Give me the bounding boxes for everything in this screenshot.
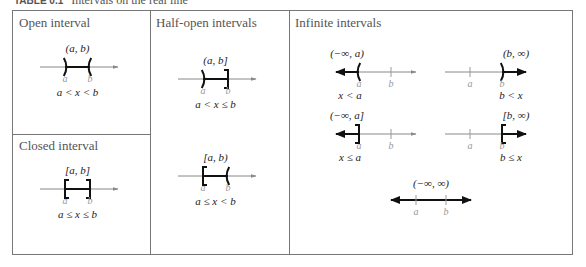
neg-inf-open-notation: (−∞, a) bbox=[330, 47, 364, 60]
tick-label-b: b bbox=[226, 182, 231, 193]
tick-label-a: a bbox=[201, 182, 206, 193]
all-reals-notation: (−∞, ∞) bbox=[413, 177, 449, 190]
tick-label-b: b bbox=[500, 140, 505, 151]
open-inequality: a < x < b bbox=[57, 86, 99, 98]
tick-label-b: b bbox=[88, 195, 93, 206]
tick-label-a: a bbox=[63, 73, 68, 84]
tick-label-b: b bbox=[226, 85, 231, 96]
tick-label-b: b bbox=[444, 206, 449, 217]
tick-label-a: a bbox=[468, 140, 473, 151]
pos-inf-closed-notation: [b, ∞) bbox=[503, 109, 530, 122]
neg-inf-open-inequality: x < a bbox=[337, 89, 362, 101]
half-open-right-notation: (a, b] bbox=[203, 54, 227, 67]
tick-label-a: a bbox=[414, 206, 419, 217]
tick-label-a: a bbox=[468, 78, 473, 89]
tick-label-b: b bbox=[500, 78, 505, 89]
pos-inf-open-notation: (b, ∞) bbox=[503, 47, 530, 60]
neg-inf-closed-inequality: x ≤ a bbox=[338, 151, 361, 163]
pos-inf-open-inequality: b < x bbox=[499, 89, 522, 101]
half-open-left-notation: [a, b) bbox=[203, 151, 228, 164]
half-open-left-inequality: a ≤ x < b bbox=[195, 195, 236, 207]
closed-notation: [a, b] bbox=[65, 164, 90, 176]
interval-diagrams: (a, b)aba < x < b[a, b]aba ≤ x ≤ b(a, b]… bbox=[0, 0, 586, 267]
tick-label-a: a bbox=[201, 85, 206, 96]
tick-label-b: b bbox=[389, 78, 394, 89]
tick-label-a: a bbox=[63, 195, 68, 206]
closed-inequality: a ≤ x ≤ b bbox=[58, 208, 97, 220]
open-notation: (a, b) bbox=[66, 42, 90, 55]
neg-inf-closed-notation: (−∞, a] bbox=[330, 109, 364, 122]
pos-inf-closed-inequality: b ≤ x bbox=[500, 151, 522, 163]
half-open-right-inequality: a < x ≤ b bbox=[195, 98, 236, 110]
tick-label-a: a bbox=[357, 78, 362, 89]
tick-label-b: b bbox=[389, 140, 394, 151]
tick-label-b: b bbox=[88, 73, 93, 84]
tick-label-a: a bbox=[357, 140, 362, 151]
